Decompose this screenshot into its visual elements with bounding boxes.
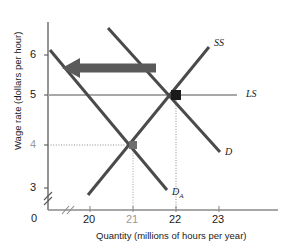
y-tick-label-5: 5 xyxy=(30,88,36,100)
curve-label-d: D xyxy=(225,146,232,157)
x-tick-label-20: 20 xyxy=(83,213,95,225)
curve-label-da-subscript: A xyxy=(179,192,183,200)
curve-d xyxy=(108,28,220,152)
curve-label-ss: SS xyxy=(214,37,224,48)
demand-shift-arrow xyxy=(62,58,156,78)
x-axis-title: Quantity (millions of hours per year) xyxy=(96,230,246,241)
chart-canvas xyxy=(0,0,283,244)
marker-initial-equilibrium xyxy=(171,90,181,100)
y-tick-label-4: 4 xyxy=(30,138,36,150)
x-tick-marks xyxy=(90,206,219,212)
wage-rate-quantity-chart: 6 5 4 3 0 20 21 22 23 Wage rate (dollars… xyxy=(0,0,283,244)
marker-new-equilibrium xyxy=(129,141,137,149)
curve-label-da: DA xyxy=(172,186,184,200)
curve-label-ls: LS xyxy=(246,88,257,99)
x-tick-label-21: 21 xyxy=(126,213,138,225)
origin-label: 0 xyxy=(31,212,37,224)
x-tick-label-22: 22 xyxy=(169,213,181,225)
x-tick-label-23: 23 xyxy=(212,213,224,225)
y-tick-label-3: 3 xyxy=(30,181,36,193)
y-tick-label-6: 6 xyxy=(30,48,36,60)
y-axis-title: Wage rate (dollars per hour) xyxy=(12,32,23,150)
